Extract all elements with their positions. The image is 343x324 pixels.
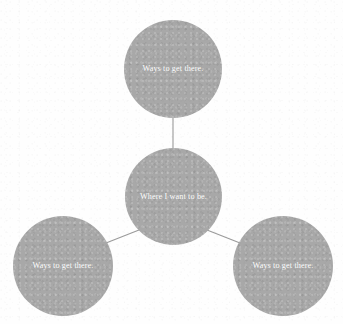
node-where-i-want-to-be[interactable]: Where I want to be. xyxy=(125,148,222,245)
node-ways-to-get-there-top[interactable]: Ways to get there. xyxy=(124,20,222,118)
node-label: Ways to get there. xyxy=(142,64,203,73)
node-label: Where I want to be. xyxy=(140,192,207,201)
node-label: Ways to get there. xyxy=(32,261,93,270)
node-label: Ways to get there. xyxy=(252,261,313,270)
node-ways-to-get-there-bottom-right[interactable]: Ways to get there. xyxy=(233,216,333,316)
diagram-canvas: Ways to get there. Where I want to be. W… xyxy=(0,0,343,324)
node-ways-to-get-there-bottom-left[interactable]: Ways to get there. xyxy=(13,216,113,316)
connector-center-to-bottom-right xyxy=(207,230,240,243)
connector-center-to-bottom-left xyxy=(106,230,139,243)
